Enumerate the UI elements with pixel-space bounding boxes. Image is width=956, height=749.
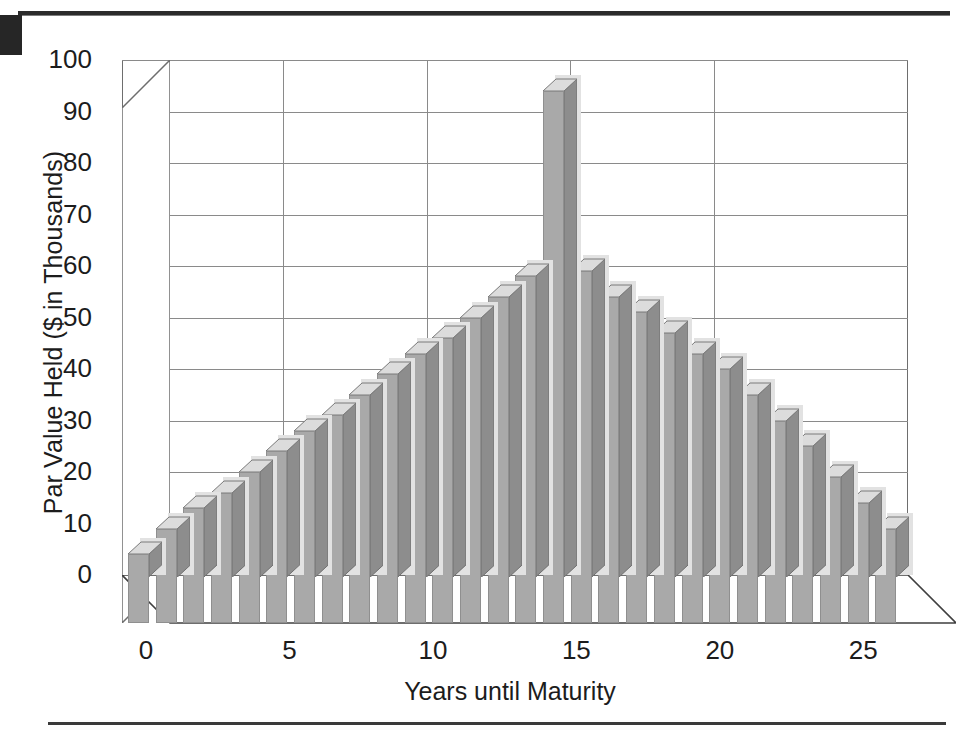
x-axis-tick-labels: 0510152025: [0, 0, 956, 749]
x-tick-label: 20: [690, 636, 750, 664]
bar-chart-figure: Par Value Held ($ in Thousands) 10090807…: [0, 0, 956, 749]
x-tick-label: 5: [259, 636, 319, 664]
x-tick-label: 10: [403, 636, 463, 664]
bottom-page-rule: [48, 722, 946, 725]
x-tick-label: 25: [833, 636, 893, 664]
x-tick-label: 0: [116, 636, 176, 664]
x-tick-label: 15: [546, 636, 606, 664]
x-axis-title: Years until Maturity: [110, 677, 910, 706]
